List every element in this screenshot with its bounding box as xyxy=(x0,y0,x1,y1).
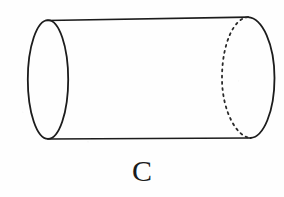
cylinder-top-edge-line xyxy=(47,17,248,20)
cylinder-left-face-ellipse xyxy=(28,20,68,139)
cylinder-body-group xyxy=(47,17,251,139)
figure-caption-label: C xyxy=(0,152,284,190)
cylinder-bottom-edge-line xyxy=(48,138,251,139)
figure-container: C xyxy=(0,0,284,197)
cylinder-right-face-visible-arc xyxy=(248,17,275,138)
cylinder-right-face-hidden-arc xyxy=(222,17,251,138)
